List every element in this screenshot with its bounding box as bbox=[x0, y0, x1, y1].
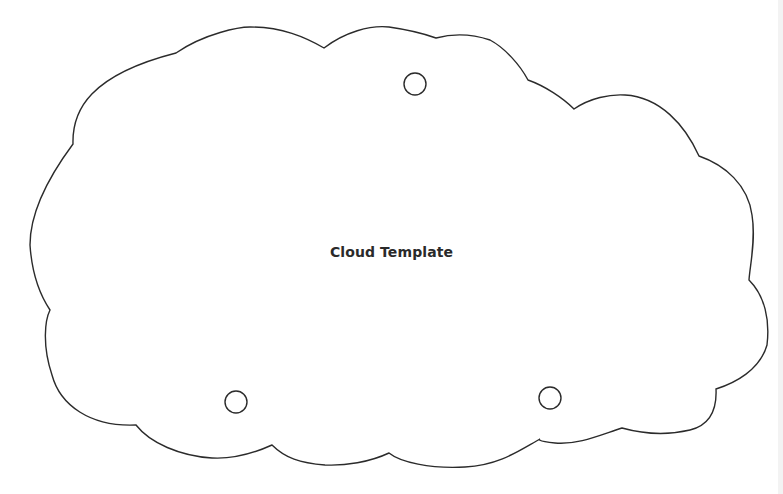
cloud-template-canvas: Cloud Template bbox=[0, 0, 783, 494]
bottom-left-hole-icon bbox=[225, 391, 247, 413]
template-title: Cloud Template bbox=[0, 244, 783, 260]
top-hole-icon bbox=[404, 73, 426, 95]
bottom-right-hole-icon bbox=[539, 387, 561, 409]
page-edge-shadow bbox=[778, 0, 783, 494]
cloud-outline-shape bbox=[176, 27, 770, 442]
